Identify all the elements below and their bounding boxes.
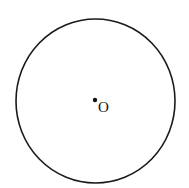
circle-diagram: O bbox=[0, 0, 189, 188]
center-label-O: O bbox=[98, 99, 109, 115]
center-point bbox=[93, 98, 97, 102]
diagram-canvas: O bbox=[0, 0, 189, 188]
